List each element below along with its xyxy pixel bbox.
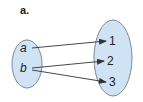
codomain-element-1: 1 [109,34,116,48]
mapping-diagram: a. a b 1 2 3 [0,0,143,102]
figure-label: a. [20,4,29,16]
codomain-element-3: 3 [109,75,116,89]
domain-element-a: a [20,41,27,55]
domain-element-b: b [20,61,27,75]
arrow-b-to-2 [32,61,104,68]
codomain-element-2: 2 [107,54,114,68]
